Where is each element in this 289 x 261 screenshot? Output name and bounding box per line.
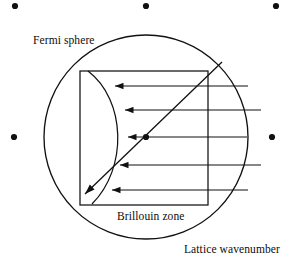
- lattice-wavenumber-label: Lattice wavenumber: [184, 243, 280, 255]
- fermi-sphere-label: Fermi sphere: [33, 34, 95, 46]
- diagonal-reciprocal-vector-arrow: [85, 62, 222, 194]
- lattice-point-dot: [143, 3, 149, 9]
- horizontal-arrow-group: [112, 86, 261, 190]
- lattice-point-dot: [11, 134, 17, 140]
- brillouin-zone-label: Brillouin zone: [117, 210, 185, 222]
- lattice-point-dot: [273, 3, 279, 9]
- lattice-point-dot: [12, 3, 18, 9]
- fermi-surface-arc: [88, 71, 118, 204]
- lattice-point-dot: [269, 134, 275, 140]
